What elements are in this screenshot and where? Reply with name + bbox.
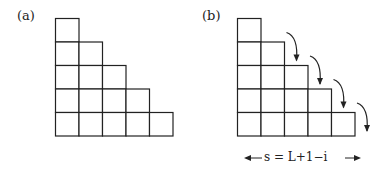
grid-cell (56, 19, 80, 43)
staircase-grid-a (56, 19, 174, 137)
grid-cell (308, 89, 332, 113)
grid-cell (79, 66, 103, 90)
arrowhead-icon (364, 125, 370, 132)
grid-cell (56, 66, 80, 90)
grid-cell (332, 113, 356, 137)
arrowhead-icon (317, 78, 323, 85)
staircase-diagrams (0, 0, 385, 172)
grid-cell (285, 113, 309, 137)
grid-cell (126, 113, 150, 137)
grid-cell (261, 66, 285, 90)
grid-cell (261, 113, 285, 137)
width-formula: s = L+1−i (264, 150, 327, 164)
grid-cell (238, 113, 262, 137)
grid-cell (261, 42, 285, 66)
grid-cell (285, 66, 309, 90)
grid-cell (238, 89, 262, 113)
grid-cell (103, 66, 127, 90)
grid-cell (238, 66, 262, 90)
grid-cell (79, 89, 103, 113)
grid-cell (103, 113, 127, 137)
grid-cell (79, 42, 103, 66)
grid-cell (261, 89, 285, 113)
grid-cell (238, 42, 262, 66)
grid-cell (150, 113, 174, 137)
grid-cell (126, 89, 150, 113)
grid-cell (238, 19, 262, 43)
staircase-grid-b (238, 19, 356, 137)
arrowhead-icon (341, 102, 347, 109)
right-arrow-icon (354, 155, 361, 161)
grid-cell (56, 113, 80, 137)
grid-cell (103, 89, 127, 113)
grid-cell (56, 42, 80, 66)
grid-cell (285, 89, 309, 113)
grid-cell (56, 89, 80, 113)
arrowhead-icon (294, 55, 300, 62)
grid-cell (308, 113, 332, 137)
left-arrow-icon (244, 155, 251, 161)
grid-cell (79, 113, 103, 137)
